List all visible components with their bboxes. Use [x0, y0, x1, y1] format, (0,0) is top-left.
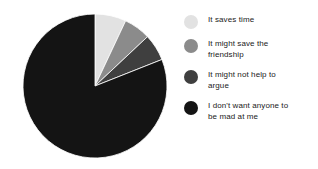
- legend-item-label: I don't want anyone to be mad at me: [208, 100, 288, 122]
- legend-swatch-might-save-friendship: [184, 39, 198, 53]
- legend-item[interactable]: It might save the friendship: [184, 38, 316, 60]
- pie-chart-figure: It saves time It might save the friendsh…: [0, 0, 318, 169]
- legend-item-label: It might save the friendship: [208, 38, 268, 60]
- legend-item-label: It saves time: [208, 14, 254, 26]
- legend-item[interactable]: It might not help to argue: [184, 69, 316, 91]
- legend-item[interactable]: It saves time: [184, 14, 316, 29]
- chart-legend: It saves time It might save the friendsh…: [184, 14, 316, 154]
- legend-item[interactable]: I don't want anyone to be mad at me: [184, 100, 316, 122]
- pie-chart-plot-area: [22, 12, 168, 160]
- legend-swatch-might-not-help-argue: [184, 70, 198, 84]
- legend-item-label: It might not help to argue: [208, 69, 276, 91]
- legend-swatch-it-saves-time: [184, 15, 198, 29]
- pie-slice-group: [23, 14, 167, 158]
- legend-swatch-dont-want-mad: [184, 101, 198, 115]
- pie-chart-svg: [22, 12, 168, 160]
